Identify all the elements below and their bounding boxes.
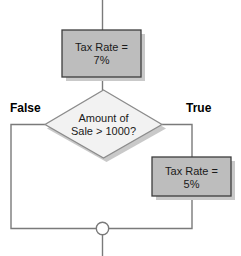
branch-label-false: False [10,101,41,115]
proc1-body [62,30,141,77]
decision-body [45,90,162,158]
proc2-body [152,157,231,196]
flowchart-graphics [0,0,241,256]
proc2-to-merge-connector [109,196,192,229]
true-branch-connector [162,125,192,158]
branch-label-true: True [186,101,211,115]
process-box-tax-rate-7[interactable] [62,30,145,81]
decision-diamond-amount-of-sale[interactable] [45,90,166,162]
process-box-tax-rate-5[interactable] [152,157,235,200]
flowchart-canvas: Tax Rate =7% Amount ofSale > 1000? Tax R… [0,0,241,256]
merge-connector-circle[interactable] [96,222,108,234]
